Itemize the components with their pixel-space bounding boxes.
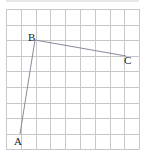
point-label-a: A [14,135,22,147]
point-label-c: C [124,54,131,66]
point-label-b: B [28,31,35,43]
point-labels: A B C [14,31,131,147]
diagram-canvas: A B C [0,0,144,151]
grid-lines [6,9,140,150]
grid-diagram: A B C [0,0,144,151]
